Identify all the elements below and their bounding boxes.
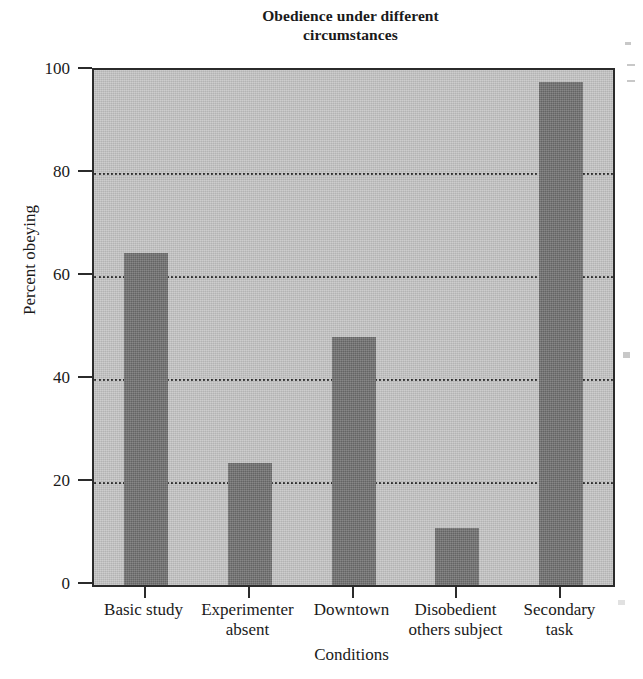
bar-4	[435, 528, 479, 585]
bar-1	[124, 253, 168, 585]
x-axis-title: Conditions	[92, 645, 611, 665]
y-tick-mark-60	[78, 273, 92, 275]
y-axis: 020406080100	[0, 0, 92, 679]
chart-title: Obedience under different circumstances	[90, 6, 611, 44]
y-tick-mark-40	[78, 376, 92, 378]
y-tick-label-60: 60	[53, 266, 70, 283]
y-tick-mark-80	[78, 170, 92, 172]
scan-artifact	[623, 352, 630, 358]
gridline-60	[94, 276, 613, 278]
y-tick-label-100: 100	[45, 60, 71, 77]
x-tick-mark-4	[455, 585, 457, 598]
x-tick-mark-1	[144, 585, 146, 598]
y-axis-title: Percent obeying	[20, 160, 40, 360]
y-tick-label-40: 40	[53, 369, 70, 386]
y-tick-label-80: 80	[53, 163, 70, 180]
gridline-80	[94, 173, 613, 175]
scan-artifact	[627, 64, 635, 66]
bar-5	[539, 82, 583, 585]
scan-artifact	[627, 80, 635, 82]
y-tick-mark-100	[78, 67, 92, 69]
y-tick-label-20: 20	[53, 472, 70, 489]
bar-2	[228, 463, 272, 585]
plot-area	[92, 68, 615, 587]
y-tick-label-0: 0	[62, 575, 71, 592]
scan-artifact	[625, 42, 631, 45]
x-tick-mark-5	[559, 585, 561, 598]
chart-title-line-2: circumstances	[90, 25, 611, 44]
x-tick-label-5: Secondary task	[464, 600, 643, 640]
chart-figure: Obedience under different circumstances …	[0, 0, 643, 679]
x-tick-mark-2	[248, 585, 250, 598]
y-tick-mark-0	[78, 582, 92, 584]
bar-3	[332, 337, 376, 585]
x-tick-mark-3	[352, 585, 354, 598]
y-tick-mark-20	[78, 479, 92, 481]
chart-title-line-1: Obedience under different	[90, 6, 611, 25]
